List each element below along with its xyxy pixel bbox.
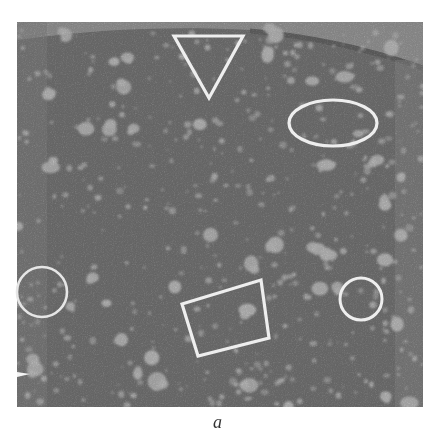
figure-panel: a <box>0 0 435 439</box>
electron-micrograph <box>17 22 423 407</box>
panel-label: a <box>0 412 435 433</box>
